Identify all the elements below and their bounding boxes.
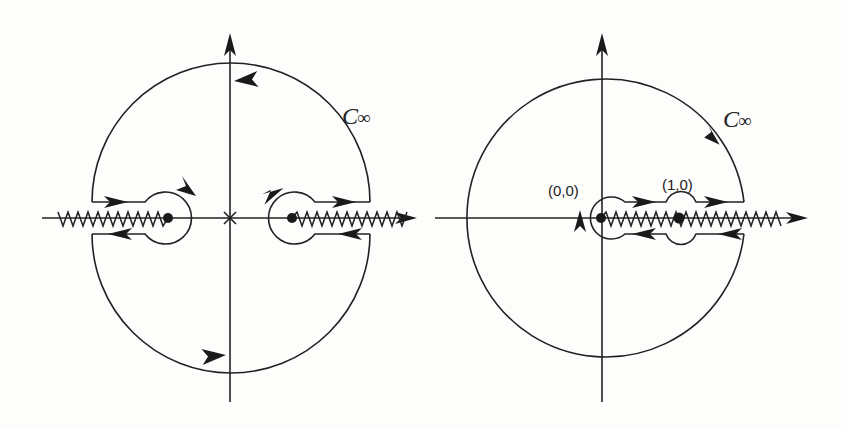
contour-diagram-figure: C∞ (0,0) (1,0) C∞ — [0, 0, 846, 429]
outer-arc-upper — [92, 63, 370, 202]
outer-arc-lower — [92, 234, 370, 373]
branch-cut — [601, 212, 781, 226]
arrow-top-leftward-icon — [233, 71, 258, 89]
arrow-bottom-rightward-icon — [201, 347, 226, 365]
point-one — [674, 213, 685, 224]
label-point-origin: (0,0) — [548, 182, 579, 199]
right-panel: (0,0) (1,0) C∞ — [435, 33, 808, 402]
branch-point-left — [163, 213, 173, 223]
contour-label-c-infinity: C∞ — [723, 106, 752, 132]
contour-label-c-infinity: C∞ — [342, 103, 371, 129]
point-origin — [596, 213, 606, 223]
branch-point-right — [287, 213, 297, 223]
diagram-canvas: C∞ (0,0) (1,0) C∞ — [0, 0, 846, 429]
left-panel: C∞ — [42, 33, 417, 402]
branch-cut-right — [292, 212, 407, 226]
arrow-left-keyhole-cw-icon — [176, 176, 196, 196]
arrow-origin-upward-icon — [574, 210, 586, 232]
label-point-one: (1,0) — [662, 176, 693, 193]
branch-cut-left — [58, 212, 168, 226]
